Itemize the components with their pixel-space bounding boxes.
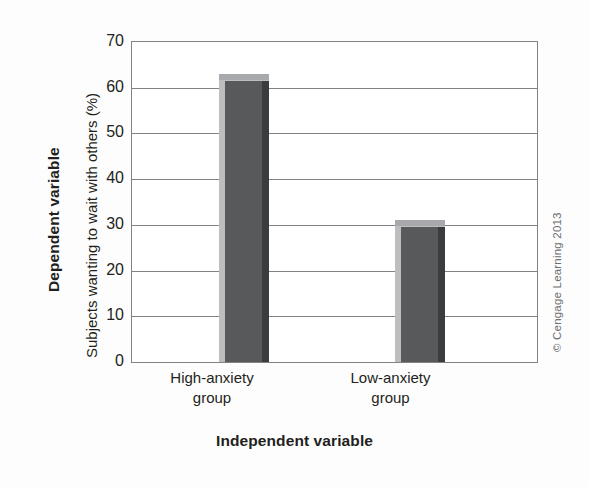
y-tick-label: 70 — [80, 33, 124, 49]
bar-right-face — [262, 81, 269, 362]
y-tick-label: 40 — [80, 170, 124, 186]
gridline-40 — [132, 179, 537, 180]
bar-front-face — [401, 227, 438, 362]
gridline-60 — [132, 88, 537, 89]
copyright-credit: © Cengage Learning 2013 — [551, 212, 563, 352]
bar-right-face — [438, 227, 445, 362]
gridline-30 — [132, 225, 537, 226]
y-tick-label: 0 — [80, 353, 124, 369]
y-tick-label: 10 — [80, 307, 124, 323]
gridline-20 — [132, 271, 537, 272]
x-category-line: group — [158, 388, 266, 408]
bar-high-anxiety — [219, 74, 269, 362]
x-category-line: group — [338, 388, 443, 408]
x-category-label-high-anxiety: High-anxiety group — [158, 368, 266, 409]
bar-low-anxiety — [395, 220, 445, 362]
bar-chart-figure: Dependent variable Subjects wanting to w… — [0, 0, 589, 487]
x-category-line: High-anxiety — [158, 368, 266, 388]
y-tick-label: 60 — [80, 79, 124, 95]
bar-top-face — [395, 220, 445, 227]
dependent-variable-title: Dependent variable — [46, 147, 62, 292]
plot-area — [131, 41, 538, 363]
y-tick-label: 30 — [80, 216, 124, 232]
x-axis-title: Independent variable — [0, 432, 589, 450]
y-tick-label: 20 — [80, 262, 124, 278]
y-axis-tick-labels: 70 60 50 40 30 20 10 0 — [74, 41, 124, 363]
bar-front-face — [225, 81, 262, 362]
x-category-line: Low-anxiety — [338, 368, 443, 388]
y-tick-label: 50 — [80, 124, 124, 140]
gridline-10 — [132, 316, 537, 317]
x-category-label-low-anxiety: Low-anxiety group — [338, 368, 443, 409]
bar-top-face — [219, 74, 269, 81]
gridline-50 — [132, 133, 537, 134]
